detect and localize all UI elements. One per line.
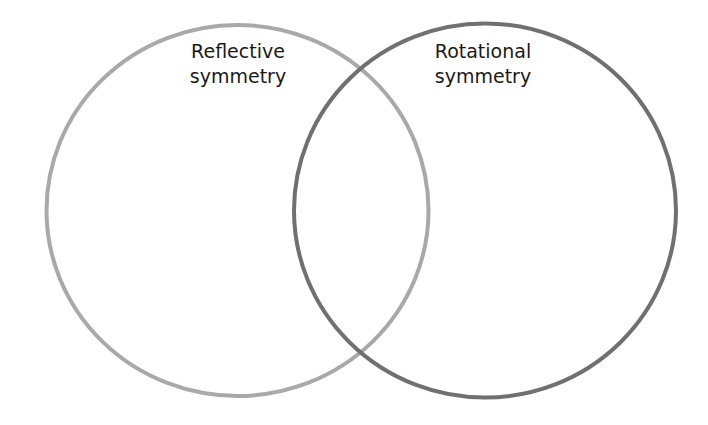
reflective-label-line-2: symmetry	[138, 64, 338, 89]
rotational-label-line-1: Rotational	[383, 39, 583, 64]
reflective-label-line-1: Reflective	[138, 39, 338, 64]
reflective-symmetry-label: Reflective symmetry	[138, 39, 338, 89]
venn-circles	[0, 0, 708, 425]
rotational-label-line-2: symmetry	[383, 64, 583, 89]
rotational-symmetry-label: Rotational symmetry	[383, 39, 583, 89]
venn-diagram: Reflective symmetry Rotational symmetry	[0, 0, 708, 425]
